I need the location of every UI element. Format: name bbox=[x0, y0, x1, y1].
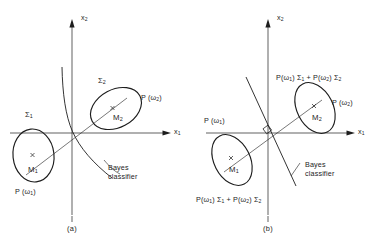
panel-b-class1-mean-marker bbox=[229, 156, 233, 160]
panel-a-caption: (a) bbox=[67, 224, 77, 233]
panel-a-class2-ellipse bbox=[83, 79, 149, 138]
figure-canvas bbox=[0, 0, 380, 249]
panel-a-class2-covariance-label: Σ2 bbox=[98, 76, 106, 85]
panel-a-x-axis-arrowhead bbox=[163, 130, 172, 135]
panel-a-y-axis-label: x2 bbox=[81, 14, 88, 23]
panel-a-class2-mean-label: M2 bbox=[113, 113, 123, 123]
panel-a-class1-mean-marker bbox=[31, 153, 35, 157]
panel-b-y-axis-arrowhead bbox=[265, 19, 270, 28]
panel-a-graphics bbox=[10, 19, 171, 215]
panel-a-class1-covariance-label: Σ1 bbox=[25, 110, 33, 119]
panel-b-class1-prior-label: P (ω1) bbox=[204, 117, 225, 126]
figure-root: x2 x1 Σ1 M1 P (ω1) Σ2 M2 P (ω2) Bayes cl… bbox=[0, 0, 380, 249]
panel-a-class1-mean-label: M1 bbox=[28, 165, 38, 175]
panel-b-class2-mean-label: M2 bbox=[312, 113, 322, 123]
panel-b-x-axis-label: x1 bbox=[358, 128, 365, 137]
panel-b-x-axis-arrowhead bbox=[347, 130, 356, 135]
panel-b-caption: (b) bbox=[263, 224, 273, 233]
panel-b-graphics bbox=[204, 19, 355, 215]
panel-b-class1-mean-label: M1 bbox=[229, 165, 239, 175]
panel-b-class2-mean-marker bbox=[312, 104, 316, 108]
panel-a-class2-prior-label: P (ω2) bbox=[141, 94, 162, 103]
panel-b-bayes-boundary-line bbox=[246, 77, 296, 186]
panel-a-bayes-classifier-label: Bayes classifier bbox=[108, 163, 137, 182]
panel-b-pooled-covariance-label-bottom: P(ω1) Σ1 + P(ω2) Σ2 bbox=[196, 196, 262, 205]
panel-b-class1-ellipse bbox=[204, 128, 261, 192]
panel-b-class2-ellipse bbox=[287, 76, 344, 140]
panel-b-class2-prior-label: P (ω2) bbox=[332, 99, 353, 108]
panel-a-class1-ellipse bbox=[10, 127, 56, 184]
panel-a-y-axis-arrowhead bbox=[69, 19, 74, 28]
panel-b-bayes-classifier-label: Bayes classifier bbox=[305, 160, 334, 179]
panel-b-bayes-label-leader bbox=[291, 163, 300, 176]
panel-a-x-axis-label: x1 bbox=[174, 128, 181, 137]
panel-b-pooled-covariance-label-top: P(ω1) Σ1 + P(ω2) Σ2 bbox=[276, 74, 342, 83]
panel-a-class1-prior-label: P (ω1) bbox=[15, 188, 36, 197]
panel-b-y-axis-label: x2 bbox=[277, 14, 284, 23]
